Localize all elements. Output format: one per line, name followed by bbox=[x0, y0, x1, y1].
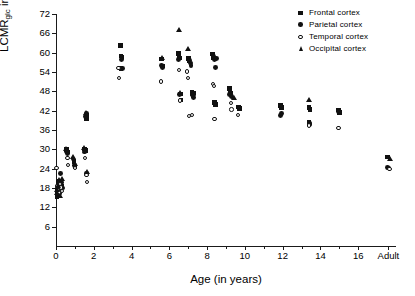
x-axis-tick-label: 14 bbox=[300, 251, 340, 261]
filled-square-icon bbox=[298, 11, 302, 15]
y-axis-tick-label: 36 bbox=[39, 125, 50, 135]
data-point bbox=[176, 27, 182, 32]
data-point bbox=[55, 183, 61, 188]
data-point bbox=[160, 65, 165, 70]
legend-marker-icon bbox=[296, 46, 305, 51]
data-point bbox=[306, 97, 312, 102]
x-axis-minor-tick bbox=[226, 246, 227, 249]
data-point bbox=[119, 57, 124, 62]
data-point bbox=[176, 57, 181, 62]
data-point bbox=[159, 55, 165, 60]
y-axis-tick-label: 66 bbox=[39, 28, 50, 38]
y-axis-tick-label: 12 bbox=[39, 202, 50, 212]
x-axis-minor-tick bbox=[113, 246, 114, 249]
data-point bbox=[57, 193, 63, 198]
y-axis-tick-label: 6 bbox=[45, 222, 50, 232]
scatter-plot-figure: 61218243036424854606672 0246810121416Adu… bbox=[0, 0, 415, 296]
data-point bbox=[227, 86, 232, 91]
data-point bbox=[279, 111, 284, 116]
x-axis-tick-label: 4 bbox=[112, 251, 152, 261]
y-axis-tick-label: 42 bbox=[39, 106, 50, 116]
data-point bbox=[214, 56, 219, 61]
x-axis-minor-tick bbox=[150, 246, 151, 249]
data-point bbox=[83, 110, 89, 115]
y-axis-tick-label: 24 bbox=[39, 164, 50, 174]
x-axis-minor-tick bbox=[264, 246, 265, 249]
legend-marker-icon bbox=[296, 22, 305, 27]
data-point bbox=[66, 163, 70, 167]
y-axis-tick-label: 30 bbox=[39, 144, 50, 154]
legend-item-label: Frontal cortex bbox=[309, 9, 360, 17]
x-axis-tick-label: Adult bbox=[368, 251, 408, 261]
data-point bbox=[81, 145, 87, 150]
data-point bbox=[190, 91, 196, 96]
y-axis-title: LCMRglc in µmol/min/100g bbox=[0, 0, 12, 52]
chart-legend: Frontal cortexParietal cortexTemporal co… bbox=[296, 8, 408, 56]
data-point bbox=[387, 167, 391, 171]
data-point bbox=[387, 156, 393, 161]
data-point bbox=[186, 76, 190, 80]
data-point bbox=[212, 84, 216, 88]
legend-item-label: Temporal cortex bbox=[309, 33, 368, 41]
data-point bbox=[116, 66, 120, 70]
data-point bbox=[190, 113, 194, 117]
data-point bbox=[54, 166, 58, 170]
data-point bbox=[213, 102, 218, 107]
x-axis-minor-tick bbox=[302, 246, 303, 249]
filled-circle-icon bbox=[298, 22, 303, 27]
x-axis-minor-tick bbox=[75, 246, 76, 249]
data-point bbox=[213, 65, 218, 70]
data-point bbox=[65, 156, 69, 160]
data-point bbox=[59, 176, 65, 181]
legend-item[interactable]: Frontal cortex bbox=[296, 8, 408, 18]
data-point bbox=[178, 98, 182, 102]
data-point bbox=[308, 107, 313, 112]
data-point bbox=[85, 180, 89, 184]
x-axis: 0246810121416Adult bbox=[0, 246, 415, 276]
x-axis-minor-tick bbox=[339, 246, 340, 249]
data-point bbox=[118, 43, 123, 48]
y-axis-tick-label: 72 bbox=[39, 9, 50, 19]
data-point bbox=[185, 46, 191, 51]
data-point bbox=[83, 156, 87, 160]
legend-item[interactable]: Parietal cortex bbox=[296, 20, 408, 30]
data-point bbox=[336, 126, 340, 130]
x-axis-tick-label: 2 bbox=[74, 251, 114, 261]
legend-item[interactable]: Occipital cortex bbox=[296, 44, 408, 54]
filled-triangle-icon bbox=[299, 46, 303, 51]
x-axis-tick-label: 0 bbox=[36, 251, 76, 261]
x-axis-tick-label: 10 bbox=[225, 251, 265, 261]
data-point bbox=[189, 63, 194, 68]
y-axis-tick-label: 54 bbox=[39, 67, 50, 77]
data-point bbox=[72, 161, 78, 166]
y-axis-tick-label: 60 bbox=[39, 48, 50, 58]
data-point bbox=[177, 68, 181, 72]
data-point bbox=[185, 69, 189, 73]
data-point bbox=[117, 76, 121, 80]
data-point bbox=[237, 106, 242, 111]
open-circle-icon bbox=[298, 35, 302, 39]
x-axis-tick-label: 8 bbox=[187, 251, 227, 261]
y-axis-tick-label: 18 bbox=[39, 183, 50, 193]
data-point bbox=[73, 166, 77, 170]
data-point bbox=[229, 101, 233, 105]
x-axis-tick-label: 12 bbox=[263, 251, 303, 261]
y-axis-tick-label: 48 bbox=[39, 86, 50, 96]
y-axis-title-units: in µmol/min/100g bbox=[0, 0, 10, 9]
data-point bbox=[63, 146, 69, 151]
legend-item-label: Parietal cortex bbox=[309, 21, 362, 29]
y-axis-title-main: LCMR bbox=[0, 19, 10, 52]
x-axis-minor-tick bbox=[188, 246, 189, 249]
x-axis-title: Age (in years) bbox=[56, 273, 396, 285]
data-point bbox=[177, 90, 183, 95]
legend-marker-icon bbox=[296, 11, 305, 15]
legend-item[interactable]: Temporal cortex bbox=[296, 32, 408, 42]
y-axis-title-subscript: glc bbox=[3, 9, 12, 19]
data-point bbox=[231, 95, 237, 100]
data-point bbox=[159, 79, 163, 83]
data-point bbox=[70, 154, 76, 159]
data-point bbox=[336, 109, 341, 114]
data-point bbox=[236, 113, 240, 117]
data-point bbox=[307, 123, 311, 127]
legend-item-label: Occipital cortex bbox=[309, 45, 366, 53]
